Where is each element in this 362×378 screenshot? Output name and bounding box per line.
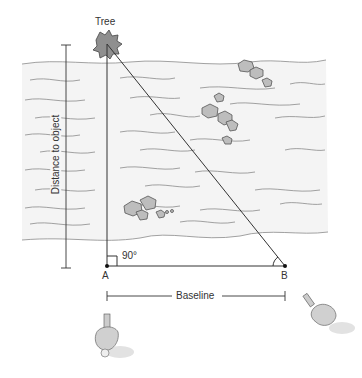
- angle-label: 90°: [122, 250, 137, 261]
- point-b-marker: [283, 264, 287, 268]
- surveyor-a-icon: [95, 314, 134, 358]
- surveyor-b-icon: [303, 293, 355, 334]
- river: [22, 60, 328, 240]
- point-a-marker: [105, 264, 109, 268]
- baseline-label: Baseline: [176, 290, 214, 301]
- distance-label: Distance to object: [50, 113, 61, 197]
- point-a-label: A: [102, 270, 109, 281]
- tree-label: Tree: [95, 16, 115, 27]
- point-b-label: B: [281, 270, 288, 281]
